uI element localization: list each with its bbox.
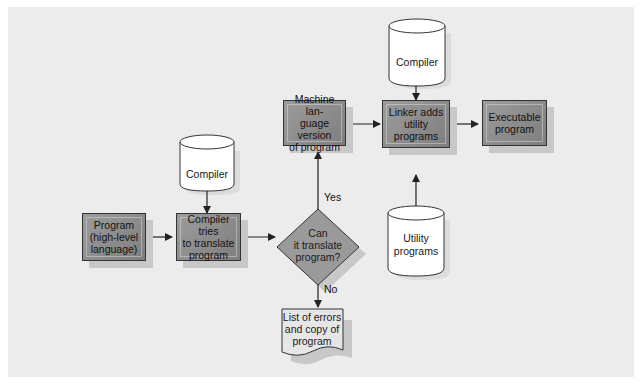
decision-diamond: Can it translate program? xyxy=(277,209,366,292)
diagram-canvas: Compiler Compiler Utility programs Can i… xyxy=(0,0,642,385)
svg-text:it translate: it translate xyxy=(294,239,343,251)
compiler-database-2-label: Compiler xyxy=(396,56,439,68)
yes-label: Yes xyxy=(324,191,341,203)
svg-text:programs: programs xyxy=(394,245,438,257)
linker-box-label: Linker adds utility programs xyxy=(389,106,443,142)
svg-text:program?: program? xyxy=(296,251,341,263)
program-box: Program (high-level language) xyxy=(82,213,146,261)
svg-text:and copy of: and copy of xyxy=(285,323,339,335)
linker-box: Linker adds utility programs xyxy=(382,100,450,148)
svg-text:List of errors: List of errors xyxy=(283,311,341,323)
compiler-database-1: Compiler xyxy=(180,135,240,195)
machine-language-box: Machine lan- guage version of program xyxy=(283,100,346,146)
compiler-tries-box: Compiler tries to translate program xyxy=(176,213,241,261)
executable-box-label: Executable program xyxy=(489,111,541,135)
svg-text:program: program xyxy=(292,335,331,347)
program-box-label: Program (high-level language) xyxy=(90,219,138,255)
svg-text:Utility: Utility xyxy=(403,232,429,244)
errors-document: List of errors and copy of program xyxy=(282,309,352,364)
compiler-database-1-label: Compiler xyxy=(186,168,229,180)
compiler-database-2: Compiler xyxy=(389,19,451,89)
utility-programs-database: Utility programs xyxy=(388,206,450,280)
svg-text:Can: Can xyxy=(308,227,327,239)
no-label: No xyxy=(324,283,337,295)
machine-language-box-label: Machine lan- guage version of program xyxy=(286,93,343,153)
executable-box: Executable program xyxy=(482,100,547,146)
compiler-tries-box-label: Compiler tries to translate program xyxy=(179,213,238,261)
